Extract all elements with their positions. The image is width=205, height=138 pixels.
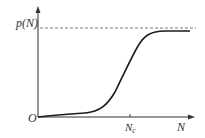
x-axis-arrow-icon bbox=[188, 115, 195, 120]
y-axis-label: p(N) bbox=[15, 16, 38, 30]
y-axis-arrow-icon bbox=[36, 6, 41, 13]
origin-label: O bbox=[28, 111, 37, 125]
critical-n-label: Nc bbox=[124, 121, 136, 135]
sigmoid-curve bbox=[38, 31, 190, 117]
critical-n-subscript: c bbox=[132, 126, 136, 135]
sigmoid-diagram: p(N) O N Nc bbox=[0, 0, 205, 138]
x-axis-label: N bbox=[176, 120, 186, 134]
